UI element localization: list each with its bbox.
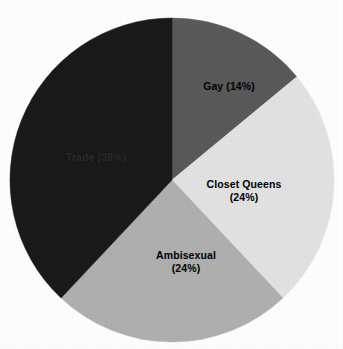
pie-chart-canvas — [0, 0, 343, 349]
pie-chart: Gay (14%) Closet Queens(24%) Ambisexual(… — [0, 0, 343, 349]
pie-slice-group — [10, 18, 334, 342]
